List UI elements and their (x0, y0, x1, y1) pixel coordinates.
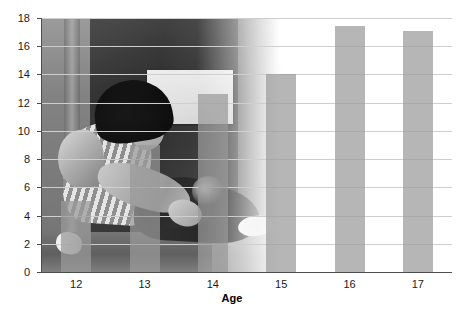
bar[interactable] (130, 145, 160, 272)
gridline (42, 74, 452, 75)
gridline (42, 103, 452, 104)
y-axis-tick (37, 216, 42, 217)
y-axis-tick (37, 131, 42, 132)
y-axis-tick-label: 18 (18, 12, 30, 24)
x-axis-tick-label: 13 (125, 278, 165, 290)
y-axis-tick (37, 159, 42, 160)
x-axis-line (41, 272, 452, 273)
bar[interactable] (403, 31, 433, 272)
bar[interactable] (266, 74, 296, 272)
x-axis-tick-label: 12 (56, 278, 96, 290)
x-axis-tick-label: 17 (398, 278, 438, 290)
y-axis-tick (37, 46, 42, 47)
y-axis-line (41, 18, 42, 273)
y-axis-tick (37, 18, 42, 19)
x-axis-tick-label: 14 (193, 278, 233, 290)
y-axis-tick-label: 12 (18, 97, 30, 109)
y-axis-tick (37, 74, 42, 75)
y-axis-tick (37, 103, 42, 104)
y-axis-tick-label: 16 (18, 40, 30, 52)
bar[interactable] (335, 26, 365, 272)
gridline (42, 244, 452, 245)
y-axis-tick (37, 272, 42, 273)
chart-figure: 024681012141618 Percent 121314151617 Age (0, 0, 464, 319)
bar[interactable] (198, 94, 228, 272)
gridline (42, 216, 452, 217)
plot-area: 121314151617 (42, 18, 452, 272)
y-axis-tick-label: 0 (24, 266, 30, 278)
y-axis-tick-label: 2 (24, 238, 30, 250)
y-axis-tick-label: 14 (18, 68, 30, 80)
y-axis-tick-labels: 024681012141618 (0, 18, 38, 273)
x-axis-title: Age (0, 292, 464, 304)
y-axis-tick-label: 10 (18, 125, 30, 137)
gridline (42, 131, 452, 132)
x-axis-tick-label: 15 (261, 278, 301, 290)
gridline (42, 187, 452, 188)
y-axis-tick-label: 6 (24, 181, 30, 193)
y-axis-tick (37, 244, 42, 245)
x-axis-tick-label: 16 (330, 278, 370, 290)
bar[interactable] (61, 201, 91, 272)
y-axis-tick-label: 4 (24, 210, 30, 222)
gridline (42, 46, 452, 47)
y-axis-tick-label: 8 (24, 153, 30, 165)
y-axis-tick (37, 187, 42, 188)
y-axis-title-wrap: Percent (14, 18, 15, 272)
gridline (42, 159, 452, 160)
gridline (42, 18, 452, 19)
